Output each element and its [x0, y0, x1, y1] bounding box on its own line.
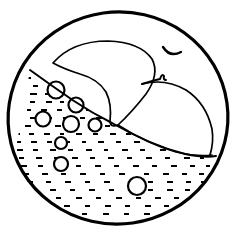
bubble-3 — [36, 112, 51, 127]
creature-body-outline — [53, 41, 155, 126]
line-drawing-svg — [0, 0, 240, 237]
bubble-8 — [128, 177, 146, 195]
bubble-4 — [63, 116, 79, 132]
bubble-5 — [89, 119, 102, 132]
bubble-6 — [55, 137, 67, 149]
illustration-canvas — [0, 0, 240, 237]
closed-eye-icon — [163, 47, 181, 54]
bubble-group — [36, 82, 147, 196]
water-texture — [13, 78, 210, 214]
bubble-7 — [54, 157, 68, 171]
